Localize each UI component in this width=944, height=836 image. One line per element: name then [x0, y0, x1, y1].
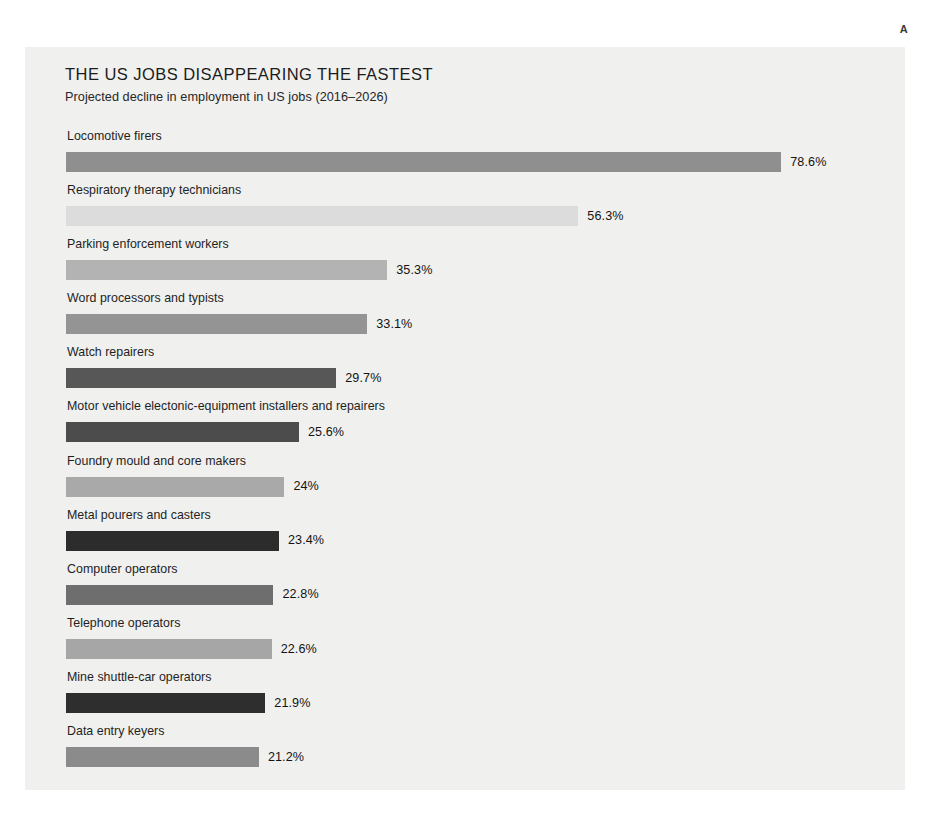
chart-card: THE US JOBS DISAPPEARING THE FASTEST Pro…: [25, 47, 905, 790]
bar-category-label: Metal pourers and casters: [66, 509, 891, 525]
bar-category-label: Foundry mould and core makers: [66, 455, 891, 471]
bar-category-label: Respiratory therapy technicians: [66, 184, 891, 200]
bar-fill: [66, 693, 265, 713]
bar-category-label: Watch repairers: [66, 346, 891, 362]
bar-row: Computer operators22.8%: [66, 563, 891, 617]
bar-fill: [66, 152, 781, 172]
chart-subtitle: Projected decline in employment in US jo…: [65, 90, 875, 106]
bar-line: 22.6%: [66, 639, 891, 659]
bar-value-label: 78.6%: [790, 156, 826, 169]
bar-row: Data entry keyers21.2%: [66, 725, 891, 779]
bar-chart-plot-area: Locomotive firers78.6%Respiratory therap…: [66, 130, 891, 764]
bar-row: Locomotive firers78.6%: [66, 130, 891, 184]
bar-category-label: Telephone operators: [66, 617, 891, 633]
bar-category-label: Computer operators: [66, 563, 891, 579]
bar-value-label: 29.7%: [345, 372, 381, 385]
bar-category-label: Motor vehicle electonic-equipment instal…: [66, 400, 891, 416]
bar-line: 35.3%: [66, 260, 891, 280]
bar-row: Metal pourers and casters23.4%: [66, 509, 891, 563]
bar-row: Respiratory therapy technicians56.3%: [66, 184, 891, 238]
bar-fill: [66, 477, 284, 497]
bar-line: 33.1%: [66, 314, 891, 334]
bar-category-label: Data entry keyers: [66, 725, 891, 741]
bar-line: 25.6%: [66, 422, 891, 442]
bar-value-label: 21.2%: [268, 751, 304, 764]
bar-fill: [66, 585, 273, 605]
bar-line: 56.3%: [66, 206, 891, 226]
corner-marker: A: [900, 24, 908, 35]
bar-line: 78.6%: [66, 152, 891, 172]
bar-fill: [66, 260, 387, 280]
bar-row: Telephone operators22.6%: [66, 617, 891, 671]
chart-header: THE US JOBS DISAPPEARING THE FASTEST Pro…: [65, 65, 875, 106]
bar-fill: [66, 314, 367, 334]
bar-category-label: Locomotive firers: [66, 130, 891, 146]
bar-fill: [66, 422, 299, 442]
bar-row: Mine shuttle-car operators21.9%: [66, 671, 891, 725]
bar-row: Motor vehicle electonic-equipment instal…: [66, 400, 891, 454]
bar-row: Parking enforcement workers35.3%: [66, 238, 891, 292]
bar-row: Word processors and typists33.1%: [66, 292, 891, 346]
bar-value-label: 33.1%: [376, 318, 412, 331]
bar-fill: [66, 206, 578, 226]
bar-value-label: 22.8%: [282, 588, 318, 601]
bar-line: 22.8%: [66, 585, 891, 605]
bar-fill: [66, 639, 272, 659]
bar-row: Foundry mould and core makers24%: [66, 455, 891, 509]
bar-line: 29.7%: [66, 368, 891, 388]
bar-line: 23.4%: [66, 531, 891, 551]
bar-value-label: 25.6%: [308, 426, 344, 439]
bar-value-label: 21.9%: [274, 697, 310, 710]
bar-value-label: 22.6%: [281, 643, 317, 656]
bar-fill: [66, 747, 259, 767]
bar-line: 24%: [66, 477, 891, 497]
bar-category-label: Parking enforcement workers: [66, 238, 891, 254]
bar-value-label: 35.3%: [396, 264, 432, 277]
bar-category-label: Word processors and typists: [66, 292, 891, 308]
bar-fill: [66, 368, 336, 388]
bar-row: Watch repairers29.7%: [66, 346, 891, 400]
bar-line: 21.9%: [66, 693, 891, 713]
bar-value-label: 23.4%: [288, 534, 324, 547]
bar-line: 21.2%: [66, 747, 891, 767]
chart-title: THE US JOBS DISAPPEARING THE FASTEST: [65, 65, 875, 85]
bar-value-label: 56.3%: [587, 210, 623, 223]
bar-category-label: Mine shuttle-car operators: [66, 671, 891, 687]
bar-value-label: 24%: [293, 480, 319, 493]
bar-fill: [66, 531, 279, 551]
